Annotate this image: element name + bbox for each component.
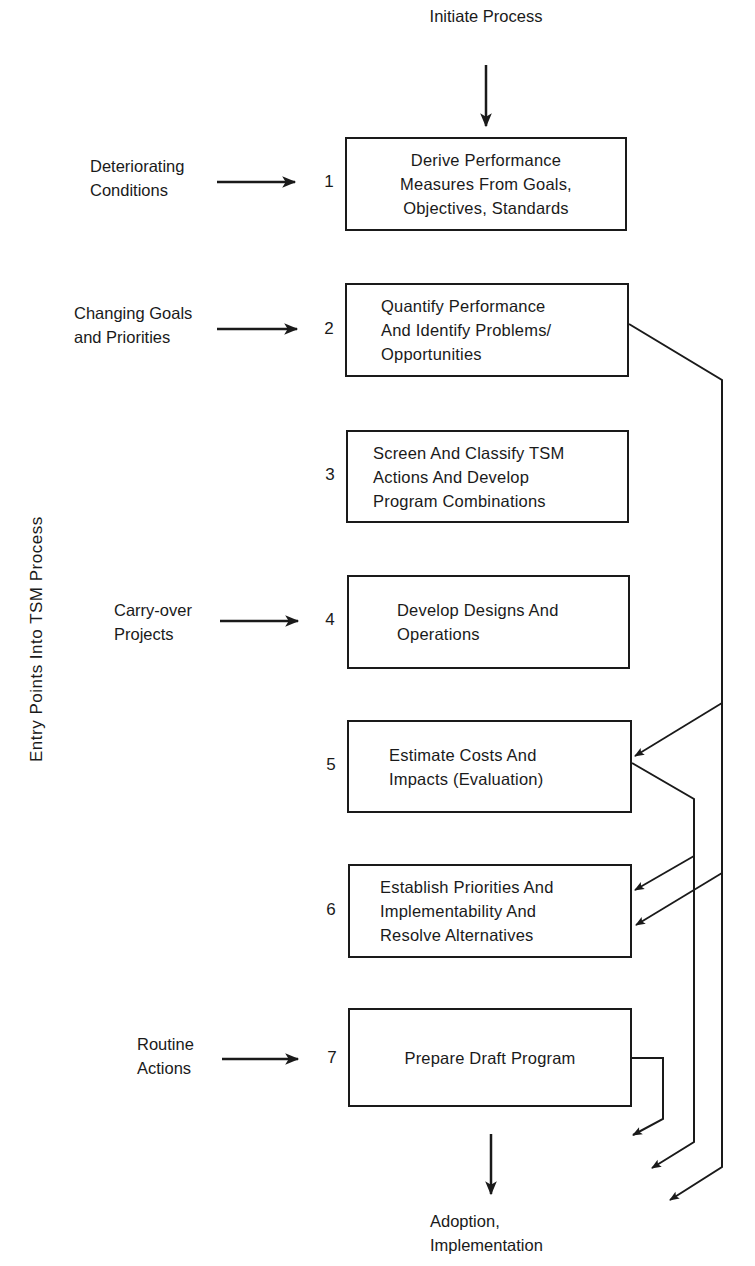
entry-label-deteriorating-conditions: Deteriorating Conditions xyxy=(90,154,184,202)
feedback-line-2 xyxy=(629,324,722,1200)
step-box-5: Estimate Costs And Impacts (Evaluation) xyxy=(347,720,632,813)
step-box-6: Establish Priorities And Implementabilit… xyxy=(348,864,632,958)
step-number-4: 4 xyxy=(320,610,340,630)
step-box-4: Develop Designs And Operations xyxy=(347,575,630,669)
step-box-2: Quantify Performance And Identify Proble… xyxy=(345,283,629,377)
step-number-3: 3 xyxy=(320,465,340,485)
entry-label-routine-actions: Routine Actions xyxy=(137,1032,194,1080)
step-text-6: Establish Priorities And Implementabilit… xyxy=(380,875,554,947)
step-text-4: Develop Designs And Operations xyxy=(397,598,559,646)
step-number-5: 5 xyxy=(321,755,341,775)
adoption-implementation-label: Adoption, Implementation xyxy=(430,1209,543,1257)
initiate-process-label: Initiate Process xyxy=(386,4,586,28)
feedback-2-to-6 xyxy=(636,873,722,925)
step-text-1: Derive Performance Measures From Goals, … xyxy=(400,148,572,220)
step-box-7: Prepare Draft Program xyxy=(348,1008,632,1107)
step-number-1: 1 xyxy=(319,172,339,192)
feedback-line-7 xyxy=(632,1058,663,1135)
step-number-6: 6 xyxy=(321,900,341,920)
step-text-5: Estimate Costs And Impacts (Evaluation) xyxy=(389,743,543,791)
entry-points-side-label: Entry Points Into TSM Process xyxy=(27,516,47,762)
step-number-2: 2 xyxy=(319,319,339,339)
entry-label-carry-over-projects: Carry-over Projects xyxy=(114,598,192,646)
step-box-1: Derive Performance Measures From Goals, … xyxy=(345,137,627,231)
step-text-2: Quantify Performance And Identify Proble… xyxy=(381,294,551,366)
step-text-7: Prepare Draft Program xyxy=(404,1046,575,1070)
step-number-7: 7 xyxy=(322,1048,342,1068)
feedback-2-to-5 xyxy=(635,703,722,756)
step-text-3: Screen And Classify TSM Actions And Deve… xyxy=(373,441,564,513)
feedback-5-to-6 xyxy=(635,856,694,890)
step-box-3: Screen And Classify TSM Actions And Deve… xyxy=(346,430,629,523)
entry-label-changing-goals: Changing Goals and Priorities xyxy=(74,301,192,349)
